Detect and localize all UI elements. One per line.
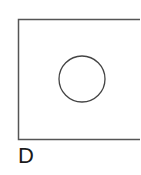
- circle-outline: [59, 56, 105, 102]
- figure-label: D: [18, 145, 34, 167]
- square-outline: [19, 20, 141, 140]
